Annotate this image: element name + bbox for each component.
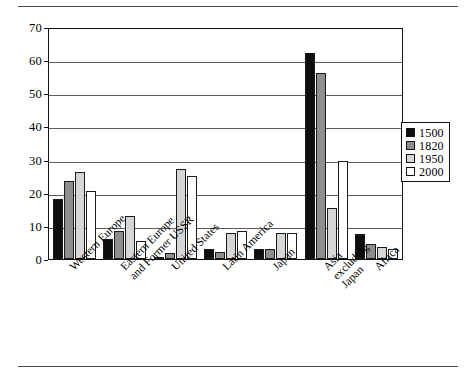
y-axis-tick-label: 50: [29, 88, 42, 101]
y-axis-tick-label: 20: [29, 187, 42, 200]
y-axis-tick-mark: [44, 260, 48, 261]
y-axis-tick-mark: [44, 227, 48, 228]
bar-group: [352, 29, 402, 259]
y-axis-tick-label: 60: [29, 55, 42, 68]
bar: [305, 53, 315, 259]
legend-swatch-icon: [406, 167, 415, 176]
bar: [316, 73, 326, 259]
bar: [254, 249, 264, 259]
y-axis-tick-label: 0: [36, 254, 42, 267]
bar-groups: [49, 29, 402, 259]
legend-item: 2000: [406, 165, 444, 178]
legend-swatch-icon: [406, 128, 415, 137]
bar: [64, 181, 74, 259]
figure-page: 010203040506070 Western EuropeEastern Eu…: [0, 0, 476, 380]
bar-group: [301, 29, 351, 259]
legend-item: 1820: [406, 139, 444, 152]
y-axis-tick-label: 10: [29, 221, 42, 234]
legend-swatch-icon: [406, 154, 415, 163]
bottom-divider-rule: [18, 366, 458, 367]
legend-label: 1500: [419, 127, 444, 139]
top-divider-rule: [18, 6, 458, 7]
bar: [215, 252, 225, 259]
y-axis-tick-label: 30: [29, 154, 42, 167]
bar: [204, 249, 214, 259]
legend-item: 1500: [406, 126, 444, 139]
y-axis-tick-mark: [44, 61, 48, 62]
y-axis-tick-label: 40: [29, 121, 42, 134]
bar-group: [49, 29, 99, 259]
bar: [265, 249, 275, 259]
y-axis-tick-mark: [44, 194, 48, 195]
chart-legend: 1500182019502000: [401, 122, 450, 182]
y-axis-tick-mark: [44, 161, 48, 162]
bar-chart: 010203040506070: [48, 28, 403, 260]
legend-swatch-icon: [406, 141, 415, 150]
plot-area: [48, 28, 403, 260]
bar: [53, 199, 63, 259]
legend-label: 1950: [419, 153, 444, 165]
y-axis-tick-mark: [44, 28, 48, 29]
legend-label: 2000: [419, 166, 444, 178]
legend-item: 1950: [406, 152, 444, 165]
bar: [114, 231, 124, 260]
y-axis-tick-mark: [44, 94, 48, 95]
y-axis-tick-label: 70: [29, 22, 42, 35]
legend-label: 1820: [419, 140, 444, 152]
y-axis-tick-mark: [44, 127, 48, 128]
